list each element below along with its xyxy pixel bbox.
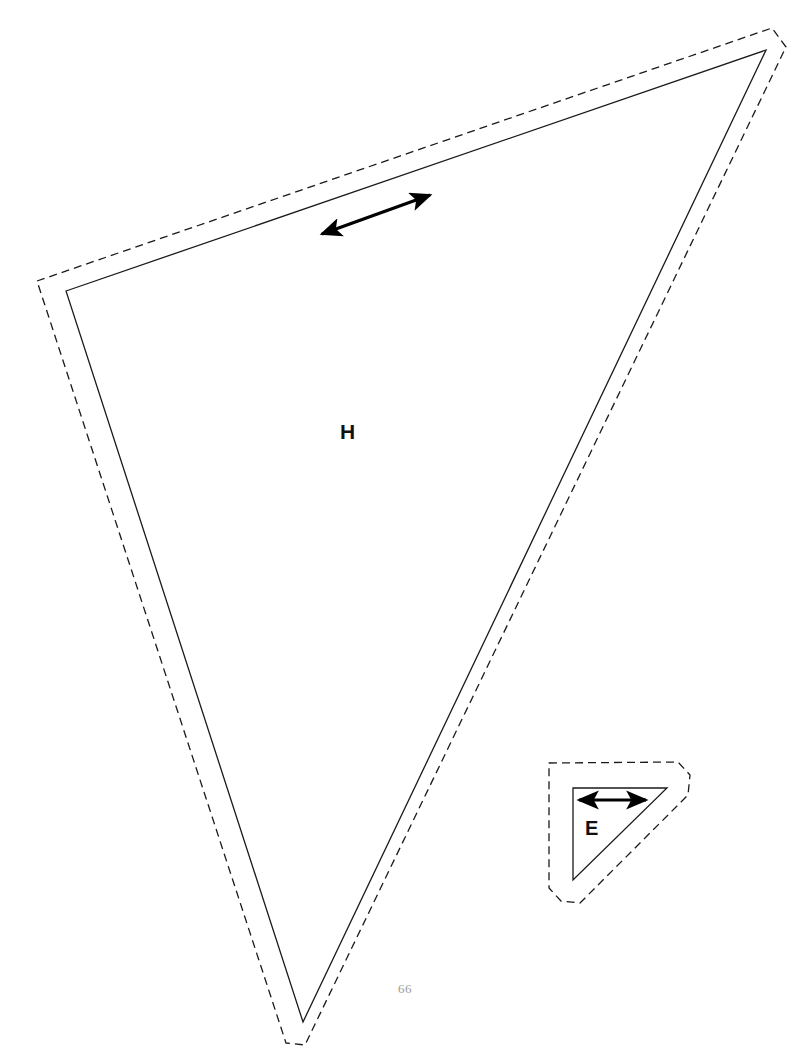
piece-label-e: E <box>585 818 599 838</box>
piece-label-h: H <box>340 421 356 442</box>
seam-allowance-outline-h <box>37 28 786 1045</box>
cutting-line-h <box>66 50 766 1022</box>
grainline-arrow-h <box>322 195 430 234</box>
pattern-drawing <box>0 0 810 1057</box>
pattern-piece-h <box>37 28 786 1045</box>
pattern-piece-e <box>549 762 690 903</box>
pattern-page: H E 66 <box>0 0 810 1057</box>
page-number: 66 <box>0 981 810 997</box>
seam-allowance-outline-e <box>549 762 690 903</box>
